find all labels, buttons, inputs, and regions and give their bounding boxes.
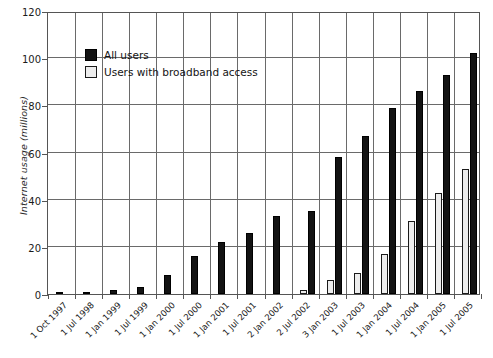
bar-all-users [273, 216, 280, 294]
legend-label: Users with broadband access [104, 66, 258, 78]
bar-group [164, 275, 183, 294]
y-axis-tick-mark [42, 59, 48, 60]
legend-swatch-light [85, 66, 97, 78]
chart-root: Internet usage (millions) 02040608010012… [0, 0, 493, 358]
chart-legend: All usersUsers with broadband access [85, 47, 258, 81]
bar-group [56, 292, 75, 294]
y-axis-tick-label: 120 [0, 7, 41, 18]
bar-group [83, 292, 102, 294]
bar-group [327, 157, 346, 294]
bar-group [246, 233, 265, 294]
bar-group [300, 211, 319, 294]
bar-group [435, 75, 454, 294]
bar-all-users [246, 233, 253, 294]
bar-broadband-users [327, 280, 334, 294]
bar-group [110, 290, 129, 294]
y-axis-tick-label: 40 [0, 195, 41, 206]
x-axis-tick-mark [481, 294, 482, 299]
bar-all-users [56, 292, 63, 294]
y-axis-tick-mark [42, 12, 48, 13]
bar-all-users [164, 275, 171, 294]
bar-all-users [110, 290, 117, 294]
x-axis-labels: 1 Oct 19971 Jul 19981 Jan 19991 Jul 1999… [47, 296, 480, 358]
bar-group [218, 242, 237, 294]
bar-broadband-users [300, 290, 307, 294]
bar-all-users [416, 91, 423, 294]
bar-all-users [362, 136, 369, 294]
legend-label: All users [104, 49, 149, 61]
bar-all-users [218, 242, 225, 294]
y-axis-tick-mark [42, 201, 48, 202]
y-axis-tick-label: 20 [0, 242, 41, 253]
bar-all-users [335, 157, 342, 294]
y-axis-tick-mark [42, 248, 48, 249]
legend-item: Users with broadband access [85, 64, 258, 80]
bar-all-users [308, 211, 315, 294]
bar-group [137, 287, 156, 294]
y-axis-tick-mark [42, 106, 48, 107]
bar-all-users [470, 53, 477, 294]
bar-broadband-users [435, 193, 442, 294]
bar-all-users [191, 256, 198, 294]
bar-broadband-users [354, 273, 361, 294]
bar-all-users [389, 108, 396, 294]
y-axis-tick-label: 0 [0, 290, 41, 301]
legend-swatch-dark [85, 49, 97, 61]
y-axis-tick-mark [42, 154, 48, 155]
bar-broadband-users [408, 221, 415, 294]
y-axis-tick-label: 80 [0, 101, 41, 112]
bar-broadband-users [381, 254, 388, 294]
legend-item: All users [85, 47, 258, 63]
bar-group [408, 91, 427, 294]
y-axis-tick-label: 60 [0, 148, 41, 159]
bar-group [462, 53, 481, 294]
bar-all-users [83, 292, 90, 294]
bar-all-users [137, 287, 144, 294]
y-axis-tick-label: 100 [0, 54, 41, 65]
bar-group [191, 256, 210, 294]
bar-broadband-users [462, 169, 469, 294]
bar-all-users [443, 75, 450, 294]
bar-group [273, 216, 292, 294]
bar-group [354, 136, 373, 294]
bar-group [381, 108, 400, 294]
